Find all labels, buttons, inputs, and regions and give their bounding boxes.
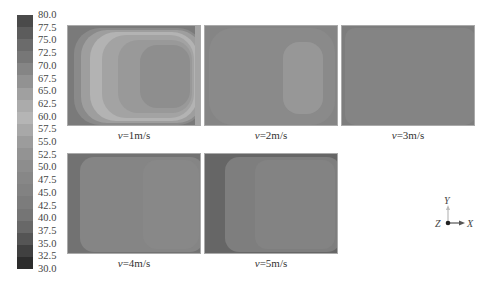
contour-panel-v3 [341,25,475,126]
colorbar-segment [17,196,33,208]
colorbar-segment [17,136,33,148]
colorbar-tick-label: 30.0 [38,264,56,274]
y-axis-label: Y [444,195,451,206]
colorbar-tick-label: 45.0 [38,188,56,198]
colorbar-segment [17,160,33,172]
contour-panel-v2 [204,25,338,126]
colorbar-segment [17,221,33,233]
colorbar-tick-label: 37.5 [38,226,56,236]
colorbar-tick-label: 52.5 [38,150,56,160]
caption-v5: v=5m/s [204,257,338,269]
colorbar-tick-label: 75.0 [38,35,56,45]
colorbar-tick-label: 32.5 [38,251,56,261]
colorbar-segment [17,88,33,100]
colorbar-segment [17,245,33,257]
colorbar-segment [17,172,33,184]
contour-panel-v4 [67,153,201,254]
colorbar [17,15,33,269]
colorbar-ticks: 80.077.575.072.570.067.565.062.560.057.5… [38,10,68,274]
colorbar-tick-label: 57.5 [38,124,56,134]
colorbar-segment [17,75,33,87]
z-axis-label: Z [435,218,441,229]
caption-val: =3m/s [397,129,425,141]
colorbar-tick-label: 47.5 [38,175,56,185]
caption-val: =1m/s [123,129,151,141]
colorbar-tick-label: 40.0 [38,213,56,223]
colorbar-tick-label: 65.0 [38,86,56,96]
colorbar-tick-label: 62.5 [38,99,56,109]
colorbar-segment [17,63,33,75]
colorbar-segment [17,148,33,160]
colorbar-segment [17,15,33,27]
colorbar-tick-label: 72.5 [38,48,56,58]
colorbar-tick-label: 67.5 [38,74,56,84]
colorbar-segment [17,257,33,269]
x-axis-label: X [466,218,474,229]
colorbar-segment [17,124,33,136]
caption-val: =5m/s [260,257,288,269]
colorbar-segment [17,112,33,124]
caption-val: =4m/s [123,257,151,269]
contour-panel-v5 [204,153,338,254]
colorbar-tick-label: 77.5 [38,23,56,33]
colorbar-segment [17,39,33,51]
colorbar-tick-label: 70.0 [38,61,56,71]
axes-triad: Y Z X [434,195,484,240]
caption-v4: v=4m/s [67,257,201,269]
colorbar-tick-label: 60.0 [38,112,56,122]
colorbar-segment [17,51,33,63]
colorbar-segment [17,233,33,245]
caption-v1: v=1m/s [67,129,201,141]
colorbar-tick-label: 50.0 [38,162,56,172]
caption-v2: v=2m/s [204,129,338,141]
colorbar-segment [17,27,33,39]
contour-panel-v1 [67,25,201,126]
caption-val: =2m/s [260,129,288,141]
colorbar-segment [17,100,33,112]
colorbar-tick-label: 55.0 [38,137,56,147]
colorbar-segment [17,209,33,221]
colorbar-tick-label: 42.5 [38,201,56,211]
colorbar-tick-label: 35.0 [38,239,56,249]
caption-v3: v=3m/s [341,129,475,141]
colorbar-segment [17,184,33,196]
colorbar-tick-label: 80.0 [38,10,56,20]
